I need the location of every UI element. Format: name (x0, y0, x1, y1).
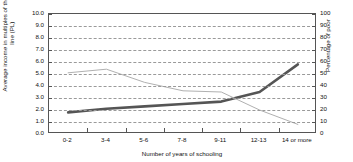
axis-tick-mark (312, 26, 315, 27)
gridline (49, 98, 315, 99)
y-axis-right-tick-label: 30 (320, 94, 346, 100)
gridline (49, 50, 315, 51)
axis-tick-mark (312, 122, 315, 123)
y-axis-right-tick-label: 20 (320, 106, 346, 112)
axis-tick-mark (49, 122, 52, 123)
axis-tick-mark (49, 50, 52, 51)
axis-tick-mark (49, 62, 52, 63)
axis-tick-mark (49, 110, 52, 111)
clipped-chart-title (34, 0, 320, 3)
gridline (49, 122, 315, 123)
y-axis-right-tick-label: 70 (320, 46, 346, 52)
x-axis-tick-mark (126, 128, 127, 132)
axis-tick-mark (49, 74, 52, 75)
y-axis-left-tick-label: 7.0 (18, 46, 44, 52)
y-axis-left-tick-label: 1.0 (18, 118, 44, 124)
y-axis-right-tick-label: 50 (320, 70, 346, 76)
gridline (49, 74, 315, 75)
x-axis-tick-label: 14 or more (267, 136, 327, 143)
axis-tick-mark (49, 14, 52, 15)
y-axis-right-tick-label: 90 (320, 22, 346, 28)
series-line (68, 64, 298, 112)
x-axis-tick-mark (202, 128, 203, 132)
axis-tick-mark (312, 62, 315, 63)
axis-tick-mark (49, 98, 52, 99)
axis-tick-mark (312, 38, 315, 39)
y-axis-right-tick-label: 60 (320, 58, 346, 64)
gridline (49, 26, 315, 27)
y-axis-left-tick-label: 3.0 (18, 94, 44, 100)
chart-container: Average income in multiples of the pover… (0, 0, 353, 162)
axis-tick-mark (312, 14, 315, 15)
y-axis-right-tick-label: 100 (320, 10, 346, 16)
y-axis-left-tick-label: 4.0 (18, 82, 44, 88)
axis-tick-mark (312, 74, 315, 75)
x-axis-title: Number of years of schooling (48, 150, 316, 157)
axis-tick-mark (49, 38, 52, 39)
axis-tick-mark (49, 26, 52, 27)
x-axis-tick-mark (240, 128, 241, 132)
axis-tick-mark (312, 86, 315, 87)
x-axis-tick-mark (279, 128, 280, 132)
y-axis-right-tick-label: 10 (320, 118, 346, 124)
y-axis-left-title: Average income in multiples of the pover… (1, 0, 15, 93)
y-axis-left-tick-label: 8.0 (18, 34, 44, 40)
series-lines (49, 14, 315, 132)
y-axis-left-tick-label: 9.0 (18, 22, 44, 28)
axis-tick-mark (312, 110, 315, 111)
gridline (49, 110, 315, 111)
y-axis-right-tick-label: 80 (320, 34, 346, 40)
y-axis-right-tick-label: 40 (320, 82, 346, 88)
x-axis-tick-mark (164, 128, 165, 132)
x-axis-tick-mark (87, 128, 88, 132)
axis-tick-mark (312, 50, 315, 51)
plot-area (48, 13, 316, 133)
y-axis-left-tick-label: 2.0 (18, 106, 44, 112)
axis-tick-mark (49, 86, 52, 87)
gridline (49, 62, 315, 63)
gridline (49, 38, 315, 39)
series-line (68, 69, 298, 124)
plot-inner (49, 14, 315, 132)
gridline (49, 86, 315, 87)
y-axis-left-tick-label: 6.0 (18, 58, 44, 64)
axis-tick-mark (312, 98, 315, 99)
y-axis-left-tick-label: 5.0 (18, 70, 44, 76)
y-axis-left-tick-label: 10.0 (18, 10, 44, 16)
